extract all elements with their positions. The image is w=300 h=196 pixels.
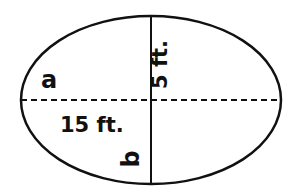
label-5-ft: 5 ft. <box>150 40 171 89</box>
label-15-ft: 15 ft. <box>60 115 124 136</box>
ellipse-diagram <box>0 0 300 196</box>
label-b: b <box>119 150 143 167</box>
label-a: a <box>41 68 57 92</box>
